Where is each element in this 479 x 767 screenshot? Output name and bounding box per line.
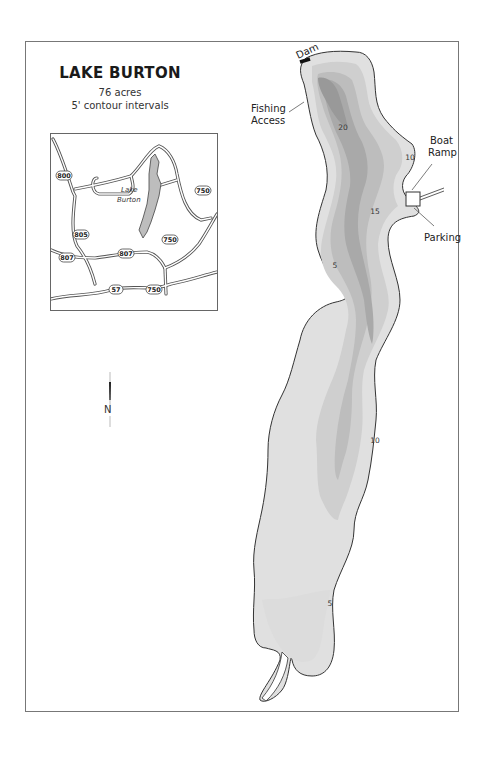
depth-label-10-north: 10	[405, 153, 415, 162]
parking-label: Parking	[424, 232, 461, 243]
parking-leader	[414, 208, 434, 226]
parking-lot-icon	[406, 192, 420, 206]
fishing-access-label-1: Fishing	[251, 103, 286, 114]
access-road	[420, 188, 444, 200]
boat-ramp-label-1: Boat	[430, 135, 453, 146]
fishing-access-label-2: Access	[251, 115, 285, 126]
depth-label-5-west: 5	[333, 261, 338, 270]
fishing-access-leader	[289, 102, 304, 112]
depth-label-10-south: 10	[370, 436, 380, 445]
boat-ramp-label-2: Ramp	[428, 147, 457, 158]
boat-ramp-leader	[412, 164, 432, 190]
depth-label-5-south: 5	[328, 599, 333, 608]
lake-bathymetry-map: Dam Fishing Access Boat Ramp Parking 20 …	[0, 0, 479, 767]
depth-label-15: 15	[370, 207, 380, 216]
depth-label-20: 20	[338, 123, 348, 132]
